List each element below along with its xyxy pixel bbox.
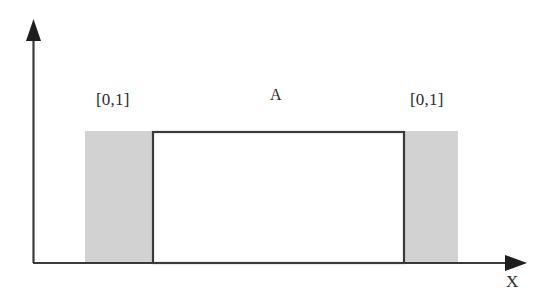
left-gray-band [85,131,152,263]
left-interval-label: [0,1] [96,90,130,110]
x-axis-label: X [506,272,518,292]
y-axis-arrowhead [26,19,41,41]
right-gray-band [405,131,458,263]
diagram-svg [0,0,545,307]
x-axis-arrowhead [505,255,527,271]
figure-canvas: [0,1] A [0,1] X [0,0,545,307]
right-interval-label: [0,1] [410,90,444,110]
region-a-box [153,132,404,263]
region-a-label: A [270,86,282,104]
